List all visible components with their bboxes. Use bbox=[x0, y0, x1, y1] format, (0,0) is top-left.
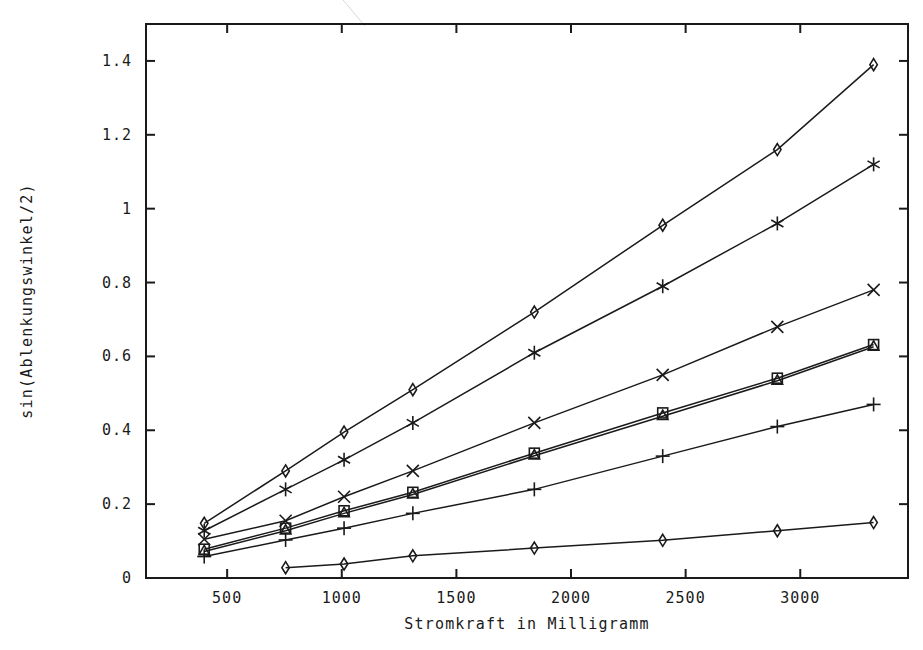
x-tick-label: 2500 bbox=[666, 589, 706, 607]
y-tick-label: 0.4 bbox=[102, 421, 132, 439]
y-axis-label: sin(Ablenkungswinkel/2) bbox=[18, 183, 36, 418]
x-tick-label: 3000 bbox=[780, 589, 820, 607]
y-tick-label: 0 bbox=[122, 569, 132, 587]
y-tick-label: 0.8 bbox=[102, 274, 132, 292]
x-tick-label: 2000 bbox=[551, 589, 591, 607]
y-tick-label: 1.4 bbox=[102, 52, 132, 70]
x-tick-label: 1500 bbox=[436, 589, 476, 607]
y-tick-label: 1.2 bbox=[102, 126, 132, 144]
x-axis-label: Stromkraft in Milligramm bbox=[404, 615, 650, 633]
y-tick-label: 1 bbox=[122, 200, 132, 218]
chart-figure: 50010001500200025003000 00.20.40.60.811.… bbox=[0, 0, 923, 650]
y-tick-label: 0.6 bbox=[102, 347, 132, 365]
line-chart: 50010001500200025003000 00.20.40.60.811.… bbox=[0, 0, 923, 650]
x-tick-label: 1000 bbox=[322, 589, 362, 607]
x-tick-label: 500 bbox=[212, 589, 242, 607]
y-tick-label: 0.2 bbox=[102, 495, 132, 513]
